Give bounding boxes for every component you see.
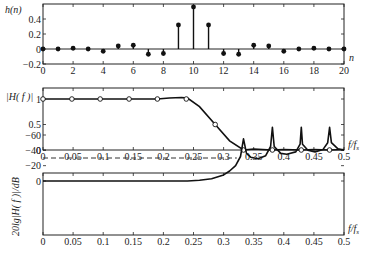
x-tick-label: 0.15 [125,151,143,162]
p3-ylabel: 20lg|H( f )|/dB [10,177,22,236]
stem-marker [236,52,241,57]
frequency-sample-marker [299,148,304,153]
x-tick-label: 0.4 [278,236,291,247]
x-tick-label: 0.1 [97,151,110,162]
p1-ylabel: h(n) [5,4,22,16]
x-tick-label: 0.2 [157,151,170,162]
frequency-sample-marker [213,122,218,127]
frequency-sample-marker [327,148,332,153]
x-tick-label: 0.35 [245,151,263,162]
y-tick-label: −20 [25,160,41,171]
plot-frame [43,88,344,150]
magnitude-curve [43,98,344,151]
stem-marker [266,44,271,49]
x-tick-label: 6 [131,65,136,76]
stem-marker [116,44,121,49]
x-tick-label: 0.5 [338,236,351,247]
y-tick-label: −40 [25,145,41,156]
x-tick-label: 16 [279,65,289,76]
magnitude-response-plot: 00.050.10.150.20.250.30.350.40.450.500.5… [29,88,351,162]
x-tick-label: 0.3 [217,151,230,162]
stem-marker [342,47,347,52]
frequency-sample-marker [270,148,275,153]
stem-marker [131,43,136,48]
stem-marker [281,49,286,54]
x-tick-label: 0 [41,151,46,162]
stem-marker [86,47,91,52]
y-tick-label: −0.2 [23,59,41,70]
x-tick-label: 0 [41,236,46,247]
y-tick-label: 0 [36,44,41,55]
impulse-response-plot: 02468101214161820−0.200.20.4 [23,4,349,76]
x-tick-label: 0.35 [245,236,263,247]
x-tick-label: 18 [309,65,319,76]
stem-marker [71,46,76,51]
stem-marker [56,47,61,52]
x-tick-label: 0.2 [157,236,170,247]
x-tick-label: 0.3 [217,236,230,247]
stem-marker [327,47,332,52]
y-tick-label: 0.5 [29,119,42,130]
x-tick-label: 0.05 [64,151,82,162]
frequency-sample-marker [70,97,75,102]
stem-marker [41,47,46,52]
y-tick-label: 0 [36,176,41,187]
x-tick-label: 0.15 [125,236,143,247]
x-tick-label: 0.05 [64,236,82,247]
frequency-sample-marker [155,97,160,102]
p3-xlabel: f/fs [348,223,359,236]
stem-marker [251,43,256,48]
x-tick-label: 0.25 [185,236,203,247]
stem-marker [312,46,317,51]
x-tick-label: 0 [41,65,46,76]
p1-xlabel: n [349,52,354,63]
stem-marker [146,52,151,57]
x-tick-label: 0.45 [305,151,323,162]
db-response-plot: 00.050.10.150.20.250.30.350.40.450.50−20… [25,127,350,247]
figure: 02468101214161820−0.200.20.4 00.050.10.1… [0,0,370,256]
x-tick-label: 20 [339,65,349,76]
stem-marker [206,23,211,28]
stem-marker [101,49,106,54]
x-tick-label: 4 [101,65,106,76]
frequency-sample-marker [98,97,103,102]
y-tick-label: 0.4 [29,14,42,25]
y-tick-label: −60 [25,130,41,141]
stem-marker [176,23,181,28]
stem-marker [221,51,226,56]
frequency-sample-marker [184,97,189,102]
stem-marker [296,47,301,52]
stem-marker [161,51,166,56]
stem-marker [191,5,196,10]
y-tick-label: 1 [36,94,41,105]
x-tick-label: 2 [71,65,76,76]
x-tick-label: 12 [219,65,229,76]
frequency-sample-marker [41,97,46,102]
x-tick-label: 10 [189,65,199,76]
frequency-sample-marker [127,97,132,102]
p2-ylabel: |H( f )| [6,91,33,103]
x-tick-label: 0.5 [338,151,351,162]
x-tick-label: 0.25 [185,151,203,162]
y-tick-label: 0.2 [29,29,42,40]
x-tick-label: 14 [249,65,259,76]
x-tick-label: 8 [161,65,166,76]
x-tick-label: 0.1 [97,236,110,247]
plot-frame [43,173,344,235]
x-tick-label: 0.45 [305,236,323,247]
